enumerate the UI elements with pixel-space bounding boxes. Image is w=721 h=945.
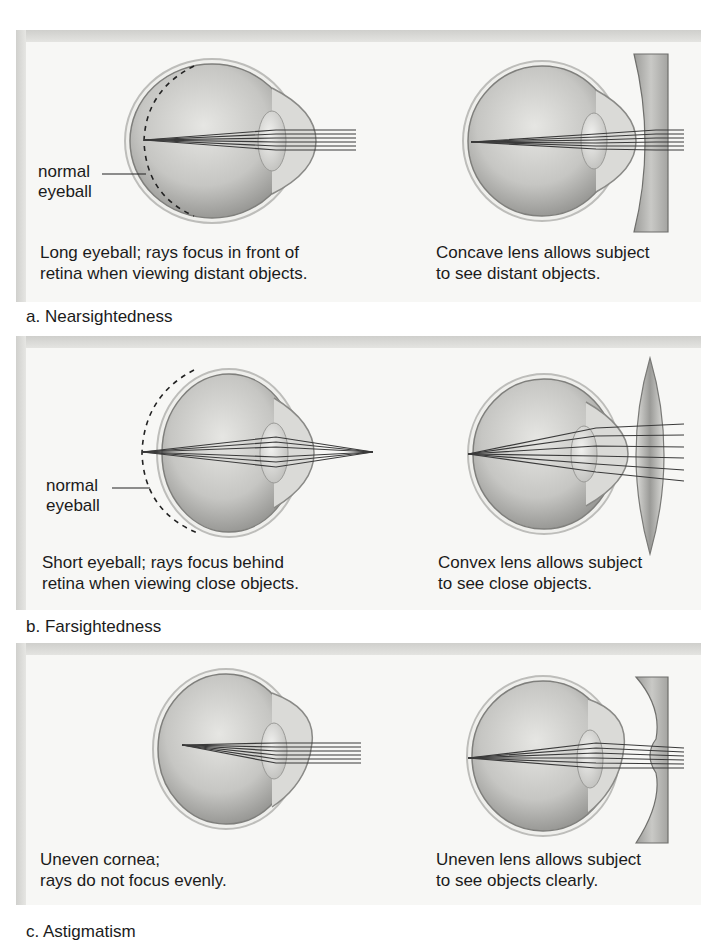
caption-line: Short eyeball; rays focus behind (42, 552, 299, 573)
caption-line: to see close objects. (438, 573, 642, 594)
convex-lens-icon (636, 358, 664, 554)
caption-line: retina when viewing close objects. (42, 573, 299, 594)
caption-line: Long eyeball; rays focus in front of (40, 242, 307, 263)
caption-line: Convex lens allows subject (438, 552, 642, 573)
caption-line: Concave lens allows subject (436, 242, 650, 263)
annotation-line: normal (38, 162, 92, 182)
panel-nearsightedness: normal eyeball Long eyeball; rays focus … (16, 30, 701, 302)
caption-line: to see distant objects. (436, 263, 650, 284)
concave-lens-icon (634, 54, 668, 232)
panel-farsightedness: normal eyeball Short eyeball; rays focus… (16, 336, 701, 610)
annotation-line: eyeball (38, 182, 92, 202)
left-caption: Long eyeball; rays focus in front of ret… (40, 242, 307, 284)
left-caption: Short eyeball; rays focus behind retina … (42, 552, 299, 594)
caption-line: Uneven cornea; (40, 849, 227, 870)
uneven-cornea-eyeball-icon (153, 669, 312, 829)
section-title-nearsightedness: a. Nearsightedness (26, 307, 172, 327)
annotation-line: eyeball (46, 496, 100, 516)
right-caption: Uneven lens allows subject to see object… (436, 849, 641, 891)
caption-line: Uneven lens allows subject (436, 849, 641, 870)
left-caption: Uneven cornea; rays do not focus evenly. (40, 849, 227, 891)
annotation-line: normal (46, 476, 100, 496)
normal-eyeball-label: normal eyeball (38, 162, 92, 202)
caption-line: rays do not focus evenly. (40, 870, 227, 891)
right-caption: Concave lens allows subject to see dista… (436, 242, 650, 284)
section-title-farsightedness: b. Farsightedness (26, 617, 161, 637)
panel-astigmatism: Uneven cornea; rays do not focus evenly.… (16, 643, 701, 905)
section-title-astigmatism: c. Astigmatism (26, 922, 136, 942)
caption-line: retina when viewing distant objects. (40, 263, 307, 284)
normal-eyeball-label: normal eyeball (46, 476, 100, 516)
caption-line: to see objects clearly. (436, 870, 641, 891)
right-caption: Convex lens allows subject to see close … (438, 552, 642, 594)
